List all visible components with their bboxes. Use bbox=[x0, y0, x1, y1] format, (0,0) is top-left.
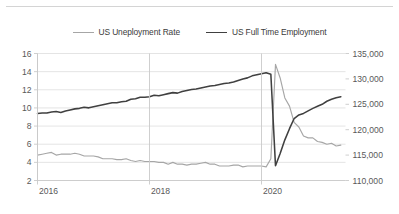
x-axis-tick-label: 2018 bbox=[151, 186, 170, 196]
axes-layer bbox=[34, 54, 349, 185]
x-axis-tick-labels: 201620182020 bbox=[39, 186, 282, 196]
right-axis-tick-label: 110,000 bbox=[353, 176, 384, 186]
right-axis-tick-label: 130,000 bbox=[353, 74, 384, 84]
series-line-unemployment-rate bbox=[38, 64, 341, 167]
plot-area: 246810121416 110,000115,000120,000125,00… bbox=[0, 0, 399, 214]
left-axis-tick-label: 10 bbox=[22, 103, 32, 113]
right-axis-tick-label: 135,000 bbox=[353, 49, 384, 59]
series-line-full-time-employment bbox=[38, 73, 341, 166]
left-axis-tick-label: 16 bbox=[22, 49, 32, 59]
right-axis-tick-label: 115,000 bbox=[353, 150, 384, 160]
left-axis-tick-label: 6 bbox=[27, 139, 32, 149]
left-axis-tick-label: 4 bbox=[27, 157, 32, 167]
left-axis-tick-label: 8 bbox=[27, 121, 32, 131]
left-axis-tick-label: 12 bbox=[22, 85, 32, 95]
chart-container: US Uneployment Rate US Full Time Employm… bbox=[0, 0, 399, 214]
x-axis-tick-label: 2020 bbox=[263, 186, 282, 196]
right-axis-tick-labels: 110,000115,000120,000125,000130,000135,0… bbox=[353, 49, 384, 186]
chart-svg: 246810121416 110,000115,000120,000125,00… bbox=[0, 0, 399, 214]
series-layer bbox=[38, 64, 341, 167]
left-axis-tick-label: 2 bbox=[27, 176, 32, 186]
right-axis-tick-label: 120,000 bbox=[353, 125, 384, 135]
x-axis-tick-label: 2016 bbox=[39, 186, 58, 196]
right-axis-tick-label: 125,000 bbox=[353, 99, 384, 109]
gridlines bbox=[38, 54, 346, 181]
left-axis-tick-label: 14 bbox=[22, 67, 32, 77]
left-axis-tick-labels: 246810121416 bbox=[22, 49, 32, 186]
